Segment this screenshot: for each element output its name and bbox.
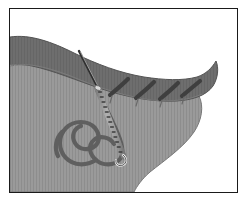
figure-frame bbox=[0, 0, 247, 201]
surgical-illustration bbox=[0, 0, 247, 201]
